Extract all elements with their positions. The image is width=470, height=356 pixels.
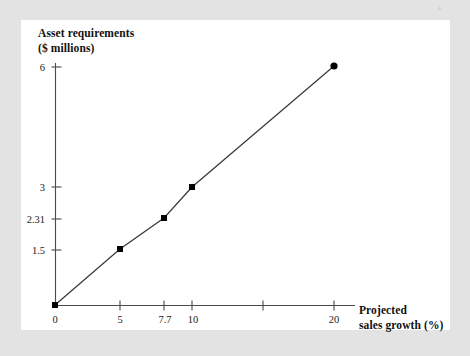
x-axis-title: Projected sales growth (%) [359,303,443,333]
y-tick-label-6: 6 [22,62,45,73]
x-axis-title-line-2: sales growth (%) [359,318,443,333]
x-tick-label-20: 20 [329,314,340,325]
chart-screenshot: Asset requirements ($ millions) Projecte… [0,0,470,356]
data-point-marker [161,215,167,221]
y-axis-title-line-1: Asset requirements [38,26,134,41]
x-tick-label-0: 0 [52,314,57,325]
x-axis-title-line-1: Projected [359,303,443,318]
data-point-marker [52,302,58,308]
data-point-marker [117,246,123,252]
data-point-marker [189,184,195,190]
y-tick-label-1-5: 1.5 [18,245,45,256]
data-point-marker [330,62,337,69]
y-tick-label-3: 3 [22,182,45,193]
y-tick-label-2-31: 2.31 [14,214,45,225]
y-axis-title-line-2: ($ millions) [38,41,134,56]
x-tick-label-10: 10 [188,314,199,325]
y-axis-title: Asset requirements ($ millions) [38,26,134,56]
x-tick-label-5: 5 [117,314,122,325]
x-tick-label-7-7: 7.7 [158,314,171,325]
